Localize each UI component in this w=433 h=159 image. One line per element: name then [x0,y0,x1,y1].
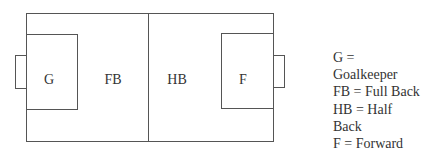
legend-line: FB = Full Back [333,83,420,100]
left-goal [15,55,27,89]
position-label-fb: FB [104,72,121,88]
right-goal [273,55,285,88]
position-label-g: G [44,72,54,88]
position-label-hb: HB [167,72,186,88]
legend-line: HB = Half [333,101,420,118]
position-label-f: F [239,72,247,88]
halfway-line [148,13,149,142]
legend-line: Goalkeeper [333,66,420,83]
right-penalty-box [221,33,274,109]
legend-line: Back [333,118,420,135]
legend-line: F = Forward [333,135,420,152]
legend-line: G = [333,49,420,66]
legend: G = Goalkeeper FB = Full Back HB = Half … [333,49,420,152]
